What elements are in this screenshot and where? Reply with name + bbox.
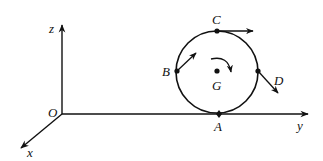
axes — [21, 25, 308, 148]
point-d-label: D — [273, 73, 284, 88]
center-label-g: G — [212, 78, 222, 93]
point-a — [216, 110, 222, 118]
diagram-canvas: z O y x G A B C D — [0, 0, 323, 161]
x-axis-label: x — [26, 145, 33, 160]
y-axis-label: y — [295, 118, 303, 133]
origin-label: O — [48, 105, 58, 120]
point-c-label: C — [212, 12, 221, 27]
clockwise-rotation-arrow-icon — [211, 58, 231, 72]
point-a-label: A — [213, 119, 222, 134]
center-point-g — [214, 68, 219, 73]
z-axis-label: z — [48, 21, 54, 36]
point-b-label: B — [162, 64, 170, 79]
